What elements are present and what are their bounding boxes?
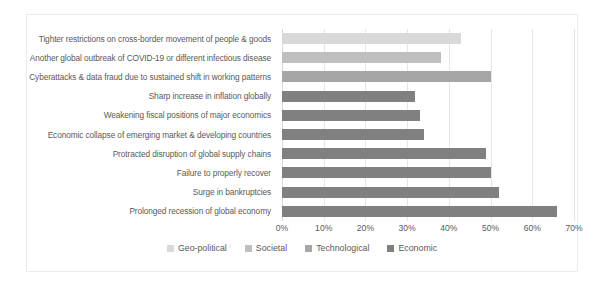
bar-row	[282, 29, 574, 48]
bar-row	[282, 48, 574, 67]
legend-swatch-icon	[387, 245, 394, 252]
chart-legend: Geo-politicalSocietalTechnologicalEconom…	[27, 243, 577, 253]
chart-screenshot: Tighter restrictions on cross-border mov…	[0, 0, 600, 285]
category-label: Failure to properly recover	[177, 168, 271, 178]
x-tick-label: 10%	[315, 223, 332, 233]
category-label-row: Failure to properly recover	[31, 163, 277, 182]
bar	[282, 148, 486, 159]
bar-row	[282, 106, 574, 125]
legend-label: Societal	[256, 243, 287, 253]
category-label: Economic collapse of emerging market & d…	[48, 130, 271, 140]
legend-label: Geo-political	[178, 243, 227, 253]
bar	[282, 129, 424, 140]
legend-swatch-icon	[305, 245, 312, 252]
category-label: Sharp increase in inflation globally	[149, 91, 271, 101]
bar-series	[282, 29, 574, 221]
legend-item[interactable]: Technological	[305, 243, 369, 253]
bar	[282, 71, 491, 82]
clipped-caption	[0, 0, 600, 9]
x-tick-label: 60%	[524, 223, 541, 233]
category-label-row: Weakening fiscal positions of major econ…	[31, 106, 277, 125]
category-label-row: Another global outbreak of COVID-19 or d…	[31, 48, 277, 67]
bar	[282, 91, 415, 102]
x-tick-label: 20%	[357, 223, 374, 233]
x-tick-label: 0%	[276, 223, 288, 233]
x-tick-label: 50%	[482, 223, 499, 233]
bar	[282, 187, 499, 198]
legend-item[interactable]: Economic	[387, 243, 437, 253]
category-label-row: Protracted disruption of global supply c…	[31, 144, 277, 163]
bar	[282, 33, 461, 44]
x-tick-label: 70%	[565, 223, 582, 233]
category-label: Surge in bankruptcies	[193, 187, 271, 197]
bar-row	[282, 87, 574, 106]
category-axis-labels: Tighter restrictions on cross-border mov…	[31, 29, 277, 221]
category-label: Prolonged recession of global economy	[129, 206, 271, 216]
x-tick-label: 30%	[399, 223, 416, 233]
category-label: Weakening fiscal positions of major econ…	[104, 110, 271, 120]
chart-frame: Tighter restrictions on cross-border mov…	[26, 14, 578, 272]
category-label-row: Tighter restrictions on cross-border mov…	[31, 29, 277, 48]
plot-area	[282, 29, 574, 221]
category-label-row: Economic collapse of emerging market & d…	[31, 125, 277, 144]
bar-row	[282, 125, 574, 144]
category-label: Another global outbreak of COVID-19 or d…	[30, 53, 271, 63]
bar	[282, 52, 441, 63]
category-label: Protracted disruption of global supply c…	[113, 149, 271, 159]
value-axis-ticks: 0%10%20%30%40%50%60%70%	[282, 223, 574, 239]
legend-label: Economic	[398, 243, 437, 253]
category-label-row: Cyberattacks & data fraud due to sustain…	[31, 67, 277, 86]
category-label-row: Surge in bankruptcies	[31, 183, 277, 202]
legend-item[interactable]: Geo-political	[167, 243, 227, 253]
x-tick-label: 40%	[440, 223, 457, 233]
bar-row	[282, 202, 574, 221]
bar	[282, 206, 557, 217]
bar-row	[282, 144, 574, 163]
legend-label: Technological	[316, 243, 369, 253]
bar-row	[282, 67, 574, 86]
legend-swatch-icon	[167, 245, 174, 252]
legend-item[interactable]: Societal	[245, 243, 287, 253]
gridline	[574, 29, 575, 221]
legend-swatch-icon	[245, 245, 252, 252]
category-label: Tighter restrictions on cross-border mov…	[39, 34, 271, 44]
bar-row	[282, 163, 574, 182]
category-label: Cyberattacks & data fraud due to sustain…	[29, 72, 271, 82]
bar	[282, 110, 420, 121]
category-label-row: Prolonged recession of global economy	[31, 202, 277, 221]
bar	[282, 167, 491, 178]
bar-row	[282, 183, 574, 202]
category-label-row: Sharp increase in inflation globally	[31, 87, 277, 106]
